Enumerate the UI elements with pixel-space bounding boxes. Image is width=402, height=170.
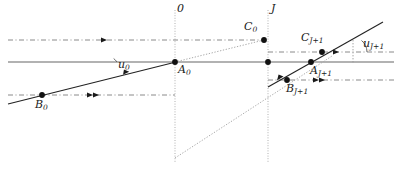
arrow-right-lower-a [313, 78, 319, 83]
angle-label-uJ1: uJ+1 [363, 38, 384, 51]
subscript-uJ1: J+1 [370, 42, 384, 51]
point-CJ1 [319, 49, 325, 55]
subscript-AJ1: J+1 [318, 69, 332, 78]
point-label-C0: C0 [244, 21, 257, 34]
subscript-u0: 0 [125, 63, 130, 72]
surface-label-0: 0 [177, 3, 184, 14]
angle-label-u0: u0 [118, 59, 130, 72]
subscript-CJ1: J+1 [309, 36, 323, 45]
arrow-right-lower-b [319, 78, 325, 83]
point-label-A0: A0 [178, 64, 191, 77]
arrow-lower-dashed-b [93, 93, 99, 98]
arrow-upper-dashed [101, 38, 107, 43]
point-label-B0: B0 [35, 99, 48, 112]
point-label-AJ1: AJ+1 [310, 65, 332, 78]
chief-ray-segment-lower [175, 56, 332, 158]
subscript-C0: 0 [252, 25, 257, 34]
subscript-BJ1: J+1 [294, 87, 308, 96]
chief-ray-segment-upper [175, 40, 264, 62]
point-C0 [261, 37, 267, 43]
subscript-A0: 0 [186, 68, 191, 77]
arrow-lower-dashed-a [87, 93, 93, 98]
point-J-axis [265, 59, 271, 65]
arrow-right-upper [333, 50, 339, 55]
point-label-BJ1: BJ+1 [286, 83, 308, 96]
point-label-CJ1: CJ+1 [301, 32, 323, 45]
surface-label-J: J [271, 3, 275, 14]
figure-canvas [0, 0, 402, 170]
subscript-B0: 0 [43, 103, 48, 112]
incident-marginal-ray [8, 62, 176, 104]
ray-diagram-figure: 0 J A0 B0 C0 AJ+1 BJ+1 CJ+1 u0 uJ+1 [0, 0, 402, 170]
